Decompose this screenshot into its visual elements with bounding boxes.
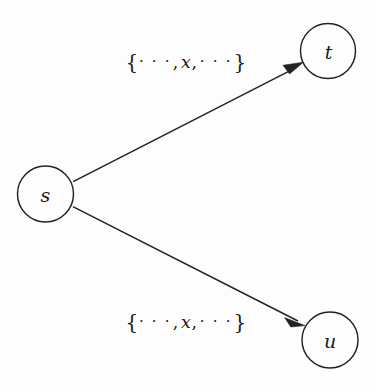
node-u[interactable]: u	[302, 312, 358, 368]
edge-s-to-t-label-left-ellipsis: · · ·	[138, 52, 172, 70]
edge-s-to-u[interactable]	[73, 207, 305, 327]
node-u-label: u	[324, 330, 336, 352]
edge-s-to-u-label-left-ellipsis: · · ·	[138, 312, 172, 330]
edge-s-to-u-label-comma-2: ,	[192, 312, 200, 332]
edge-s-to-t-label: {· · ·,x,· · ·}	[125, 52, 246, 72]
edge-s-to-t[interactable]	[73, 62, 303, 181]
edge-s-to-t-line	[73, 67, 296, 181]
graph-diagram-canvas: s t u {· · ·,x,· · ·} {· · ·,x,· · ·}	[0, 0, 377, 391]
edge-s-to-t-label-close-brace: }	[234, 50, 247, 74]
node-s-label: s	[41, 184, 51, 206]
node-s[interactable]: s	[18, 166, 74, 222]
edge-s-to-t-label-variable: x	[180, 52, 191, 72]
node-t-label: t	[325, 41, 333, 63]
edge-s-to-t-label-comma-1: ,	[173, 52, 181, 72]
edge-s-to-t-label-open-brace: {	[125, 50, 138, 74]
edge-s-to-u-label-right-ellipsis: · · ·	[199, 312, 233, 330]
edge-s-to-u-label-close-brace: }	[234, 310, 247, 334]
edge-s-to-u-label-comma-1: ,	[173, 312, 181, 332]
edge-s-to-t-label-right-ellipsis: · · ·	[199, 52, 233, 70]
node-t[interactable]: t	[301, 24, 356, 79]
edge-s-to-u-label-variable: x	[180, 312, 191, 332]
edge-s-to-u-label: {· · ·,x,· · ·}	[125, 312, 246, 332]
edge-s-to-t-label-comma-2: ,	[192, 52, 200, 72]
edge-s-to-u-label-open-brace: {	[125, 310, 138, 334]
edge-s-to-u-line	[73, 207, 298, 321]
